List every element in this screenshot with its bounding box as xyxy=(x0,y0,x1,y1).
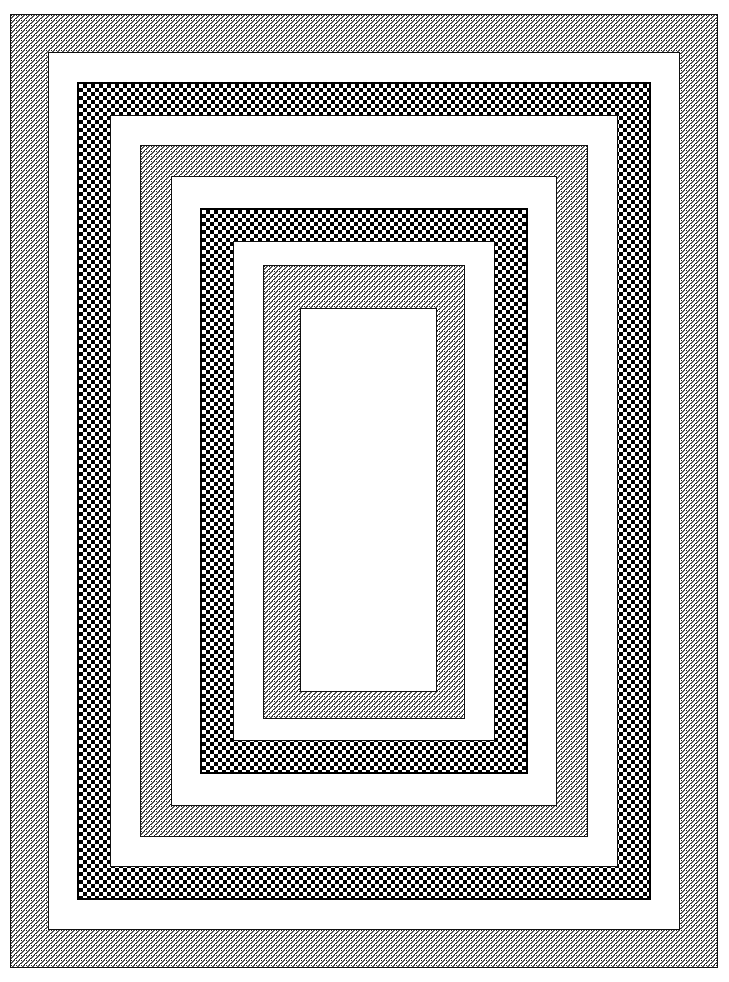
center-white-panel xyxy=(300,308,437,692)
artwork-canvas xyxy=(0,0,729,982)
